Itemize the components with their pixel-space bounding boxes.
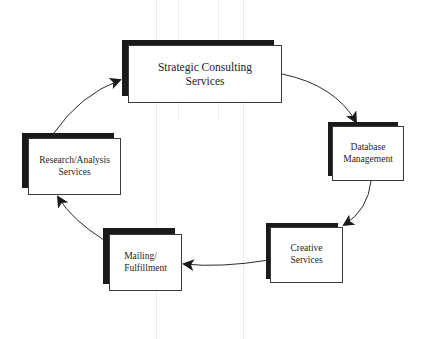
node-box: Strategic Consulting Services [128, 45, 282, 103]
arrow-mailing-to-research [58, 197, 104, 240]
arrow-creative-to-mailing [184, 260, 269, 265]
diagram-canvas: Strategic Consulting Services Database M… [0, 0, 428, 339]
node-mailing-fulfillment: Mailing/ Fulfillment [103, 228, 183, 292]
node-creative-services: Creative Services [266, 223, 344, 284]
node-database-management: Database Management [328, 122, 406, 182]
node-box: Mailing/ Fulfillment [109, 234, 182, 291]
arrow-research-to-strategic [54, 80, 120, 133]
node-label: Creative Services [290, 243, 322, 267]
node-label: Database Management [343, 142, 393, 166]
node-box: Database Management [332, 126, 404, 181]
arrow-strategic-to-database [282, 74, 356, 122]
node-box: Research/Analysis Services [28, 138, 121, 195]
node-label: Research/Analysis Services [39, 155, 110, 179]
node-strategic-consulting: Strategic Consulting Services [122, 40, 284, 104]
node-box: Creative Services [270, 227, 343, 283]
arrow-database-to-creative [344, 181, 371, 225]
node-research-analysis: Research/Analysis Services [22, 133, 122, 196]
node-label: Mailing/ Fulfillment [124, 251, 167, 275]
node-label: Strategic Consulting Services [158, 60, 252, 89]
